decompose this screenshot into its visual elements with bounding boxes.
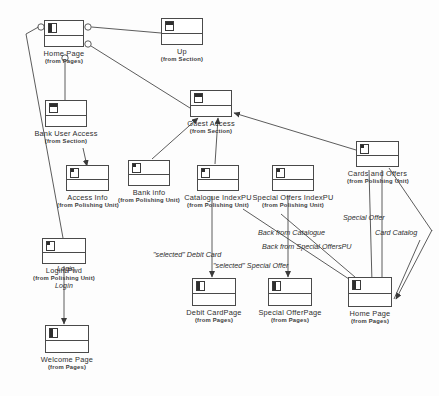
page-icon bbox=[196, 281, 205, 291]
node-header bbox=[269, 279, 311, 294]
node-special_offers_index[interactable] bbox=[272, 165, 314, 191]
node-package: (from Polishing Unit) bbox=[235, 202, 350, 209]
page-icon bbox=[49, 328, 58, 338]
node-package: (from Pages) bbox=[312, 318, 427, 325]
node-header bbox=[193, 279, 235, 294]
node-header bbox=[198, 166, 238, 180]
edge-label-sel_special_offer: "selected" Special Offer bbox=[213, 262, 288, 269]
page-icon bbox=[352, 280, 361, 290]
edge-label-back_from_so_pu: Back from Special OffersPU bbox=[262, 243, 351, 250]
edge-label-card_catalog: Card Catalog bbox=[375, 229, 417, 236]
node-package: (from Section) bbox=[124, 56, 239, 63]
node-body bbox=[129, 175, 169, 185]
node-header bbox=[349, 278, 391, 294]
node-caption-home_page_bottom: Home Page(from Pages) bbox=[310, 310, 430, 325]
node-caption-bank_user_access: Bank User Access(from Section) bbox=[6, 130, 126, 145]
node-login_pwd[interactable] bbox=[42, 238, 86, 264]
unit-icon bbox=[360, 144, 369, 154]
node-body bbox=[269, 294, 311, 305]
diagram-canvas: Home Page(from Pages)Up(from Section)Ban… bbox=[0, 0, 439, 396]
node-cards_and_offers[interactable] bbox=[356, 141, 399, 167]
edge-label-back_from_catalogue: Back from Catalogue bbox=[258, 229, 325, 236]
page-icon bbox=[48, 23, 57, 33]
node-header bbox=[46, 326, 88, 341]
edge-label-special_offer: Special Offer bbox=[343, 214, 385, 221]
section-icon bbox=[194, 93, 203, 103]
node-bank_user_access[interactable] bbox=[45, 100, 87, 127]
unit-icon bbox=[201, 168, 210, 178]
node-welcome_page[interactable] bbox=[45, 325, 89, 353]
node-body bbox=[198, 180, 238, 190]
node-package: (from Pages) bbox=[6, 58, 121, 65]
node-package: (from Section) bbox=[8, 138, 123, 145]
node-body bbox=[193, 294, 235, 305]
node-extra-label: Login bbox=[4, 282, 124, 290]
node-body bbox=[46, 116, 86, 127]
node-header bbox=[357, 142, 398, 156]
node-body bbox=[349, 294, 391, 306]
node-body bbox=[357, 156, 398, 166]
node-caption-special_offers_index: Special Offers IndexPU(from Polishing Un… bbox=[233, 194, 353, 209]
node-caption-welcome_page: Welcome Page(from Pages) bbox=[7, 356, 127, 371]
node-caption-guest_access: Guest Access(from Section) bbox=[151, 120, 271, 135]
node-header bbox=[46, 101, 86, 116]
node-up[interactable] bbox=[161, 18, 203, 45]
node-header bbox=[191, 91, 231, 106]
node-body bbox=[162, 34, 202, 45]
unit-icon bbox=[276, 168, 285, 178]
node-home_page_top[interactable] bbox=[44, 20, 84, 47]
unit-icon bbox=[46, 241, 55, 251]
node-package: (from Section) bbox=[153, 128, 268, 135]
node-special_offer_page[interactable] bbox=[268, 278, 312, 306]
page-icon bbox=[272, 281, 281, 291]
node-body bbox=[43, 253, 85, 263]
node-access_info[interactable] bbox=[66, 165, 109, 191]
section-icon bbox=[49, 103, 58, 113]
node-header bbox=[162, 19, 202, 34]
unit-icon bbox=[132, 163, 141, 173]
node-header bbox=[43, 239, 85, 253]
node-header bbox=[273, 166, 313, 180]
node-body bbox=[46, 341, 88, 352]
node-header bbox=[45, 21, 83, 36]
node-catalogue_index[interactable] bbox=[197, 165, 239, 191]
node-body bbox=[191, 106, 231, 117]
node-debit_card_page[interactable] bbox=[192, 278, 236, 306]
node-guest_access[interactable] bbox=[190, 90, 232, 117]
node-caption-home_page_top: Home Page(from Pages) bbox=[4, 50, 124, 65]
node-header bbox=[129, 161, 169, 175]
node-caption-up: Up(from Section) bbox=[122, 48, 242, 63]
node-package: (from Polishing Unit) bbox=[320, 178, 435, 185]
section-icon bbox=[165, 21, 174, 31]
node-bank_info[interactable] bbox=[128, 160, 170, 186]
unit-icon bbox=[70, 168, 79, 178]
edge-label-login_link: Login bbox=[57, 265, 75, 272]
node-body bbox=[45, 36, 83, 47]
node-body bbox=[273, 180, 313, 190]
node-package: (from Pages) bbox=[9, 364, 124, 371]
node-home_page_bottom[interactable] bbox=[348, 277, 392, 307]
node-header bbox=[67, 166, 108, 180]
node-package: (from Polishing Unit) bbox=[6, 275, 121, 282]
edge-label-sel_debit_card: "selected" Debit Card bbox=[153, 251, 221, 258]
node-caption-cards_and_offers: Cards and Offers(from Polishing Unit) bbox=[318, 170, 438, 185]
